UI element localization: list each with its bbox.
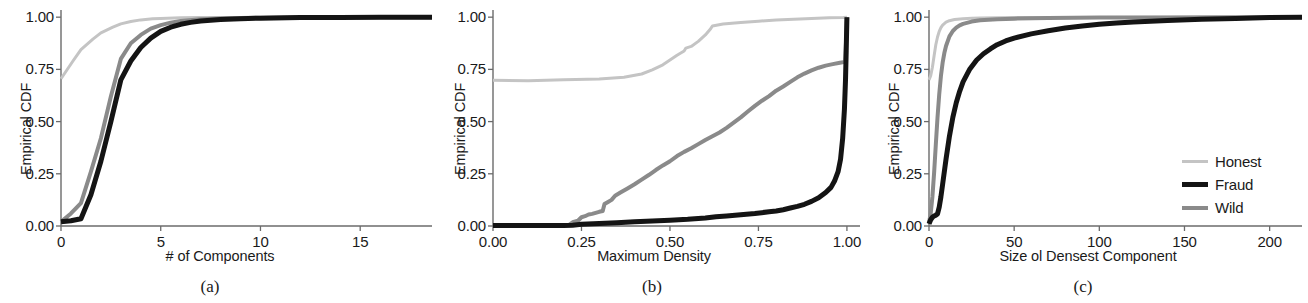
legend-label-honest: Honest bbox=[1215, 153, 1261, 170]
panel-a-y-ticks bbox=[56, 17, 61, 226]
legend-swatch-fraud bbox=[1182, 182, 1208, 187]
panel-a-y-tick-label: 0.75 bbox=[0, 60, 54, 77]
panel-c-y-tick-label: 0.75 bbox=[867, 60, 922, 77]
panel-b-y-ticks bbox=[488, 17, 493, 226]
panel-c-y-tick-label: 1.00 bbox=[867, 8, 922, 25]
panel-a-curves bbox=[61, 17, 432, 222]
panel-b-axes bbox=[493, 10, 860, 226]
panel-c-x-ticks bbox=[929, 226, 1270, 231]
panel-b-y-tick-label: 0.75 bbox=[431, 60, 486, 77]
panel-a-x-axis-title: # of Components bbox=[0, 248, 440, 264]
panel-a-y-axis-title: Empirical CDF bbox=[18, 83, 34, 175]
legend-item-fraud: Fraud bbox=[1182, 173, 1302, 196]
legend-swatch-honest bbox=[1182, 160, 1208, 163]
panel-a-subcaption: (a) bbox=[180, 277, 240, 297]
panel-b-y-axis-title: Empirical CDF bbox=[452, 83, 468, 175]
panel-b-x-axis-title: Maximum Density bbox=[440, 248, 868, 264]
panel-b-series-fraud bbox=[493, 17, 847, 225]
panel-b-series-honest bbox=[493, 17, 847, 80]
panel-b-y-tick-label: 1.00 bbox=[431, 8, 486, 25]
panel-c-x-axis-title: Size ol Densest Component bbox=[868, 248, 1308, 264]
legend-swatch-wild bbox=[1182, 206, 1208, 210]
panel-b: 0.000.250.500.751.00 0.000.250.500.751.0… bbox=[440, 0, 868, 303]
legend: HonestFraudWild bbox=[1182, 150, 1302, 219]
legend-item-wild: Wild bbox=[1182, 196, 1302, 219]
panel-c-subcaption: (c) bbox=[1053, 277, 1113, 297]
panel-a-x-ticks bbox=[61, 226, 360, 231]
panel-a-series-fraud bbox=[61, 17, 432, 222]
figure-container: 0.000.250.500.751.00 051015 Empirical CD… bbox=[0, 0, 1308, 303]
panel-c-series-honest bbox=[929, 17, 1302, 80]
panel-a-series-wild bbox=[61, 17, 432, 222]
panel-a: 0.000.250.500.751.00 051015 Empirical CD… bbox=[0, 0, 440, 303]
panel-b-y-tick-label: 0.00 bbox=[431, 217, 486, 234]
panel-b-series-wild bbox=[493, 17, 847, 225]
panel-c-y-axis-title: Empirical CDF bbox=[886, 83, 902, 175]
panel-c-y-ticks bbox=[924, 17, 929, 226]
panel-a-y-tick-label: 1.00 bbox=[0, 8, 54, 25]
legend-label-fraud: Fraud bbox=[1215, 176, 1253, 193]
panel-b-subcaption: (b) bbox=[622, 277, 682, 297]
panel-c-y-tick-label: 0.00 bbox=[867, 217, 922, 234]
panel-b-curves bbox=[493, 17, 847, 225]
panel-a-y-tick-label: 0.00 bbox=[0, 217, 54, 234]
legend-item-honest: Honest bbox=[1182, 150, 1302, 173]
panel-a-axes bbox=[61, 10, 432, 226]
legend-label-wild: Wild bbox=[1215, 199, 1243, 216]
